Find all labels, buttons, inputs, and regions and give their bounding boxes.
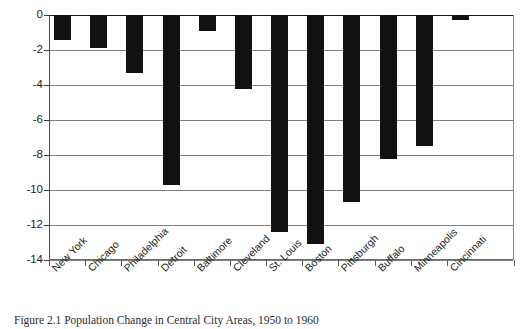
y-tick-label: -10 (1, 184, 43, 196)
y-tick-mark (44, 15, 50, 16)
plot-area (49, 15, 514, 260)
y-tick-mark (44, 120, 50, 121)
y-tick-label: -8 (1, 149, 43, 161)
y-tick-mark (44, 225, 50, 226)
y-tick-mark (44, 155, 50, 156)
bar (452, 15, 469, 20)
bar (271, 15, 288, 232)
bar (380, 15, 397, 159)
y-axis-labels: 0-2-4-6-8-10-12-14 (0, 15, 43, 260)
bar (90, 15, 107, 48)
y-tick-label: -14 (1, 254, 43, 266)
bar (199, 15, 216, 31)
y-tick-label: -2 (1, 44, 43, 56)
y-tick-label: -6 (1, 114, 43, 126)
y-tick-mark (44, 85, 50, 86)
y-tick-label: 0 (1, 9, 43, 21)
bar (343, 15, 360, 202)
y-tick-label: -12 (1, 219, 43, 231)
bar (126, 15, 143, 73)
bar (307, 15, 324, 244)
bar (54, 15, 71, 40)
y-tick-mark (44, 190, 50, 191)
y-tick-mark (44, 50, 50, 51)
bar (416, 15, 433, 146)
x-tick-mark (514, 260, 515, 266)
bar (163, 15, 180, 185)
bar (235, 15, 252, 89)
figure: 0-2-4-6-8-10-12-14 New YorkChicagoPhilad… (0, 0, 525, 329)
y-tick-label: -4 (1, 79, 43, 91)
figure-caption: Figure 2.1 Population Change in Central … (14, 314, 514, 327)
